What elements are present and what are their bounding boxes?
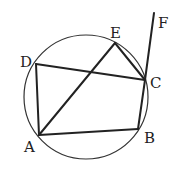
ray-CF [145, 13, 154, 80]
segment-BC [138, 80, 145, 129]
label-F: F [158, 14, 168, 32]
label-E: E [110, 24, 121, 42]
segment-DA [36, 64, 39, 135]
segment-AE [39, 43, 115, 135]
segment-AB [39, 129, 138, 135]
label-B: B [144, 129, 155, 147]
label-D: D [20, 53, 32, 71]
geometry-diagram: A B C D E F [0, 0, 182, 171]
circumcircle [24, 35, 148, 159]
label-A: A [23, 138, 35, 156]
segment-EC [115, 43, 145, 80]
label-C: C [150, 74, 161, 92]
